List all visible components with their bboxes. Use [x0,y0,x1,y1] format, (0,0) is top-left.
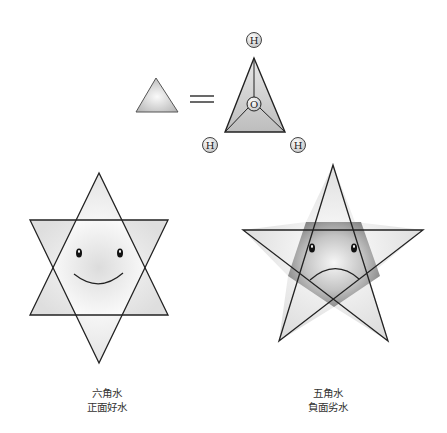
hexagram-title: 六角水 [62,386,152,400]
pentagram-title: 五角水 [283,386,373,400]
hydrogen-atom-top: H [247,33,262,48]
diagram-canvas: O H H H [0,0,447,433]
left-eye-icon [76,249,82,258]
right-eye-icon [351,244,357,253]
hydrogen-atom-right: H [291,138,306,153]
pentagram-subtitle: 負面劣水 [283,400,373,414]
pentagram-caption: 五角水 負面劣水 [283,386,373,414]
hexagram-subtitle: 正面好水 [62,400,152,414]
left-eye-icon [309,244,315,253]
oxygen-atom: O [247,97,261,111]
pentagram-star [243,165,423,341]
right-eye-icon [117,249,123,258]
hexagram-caption: 六角水 正面好水 [62,386,152,414]
water-triangle-symbol [136,78,178,112]
svg-text:H: H [206,140,215,151]
hexagram-star [30,173,168,363]
svg-text:O: O [250,99,258,110]
svg-text:H: H [250,35,259,46]
svg-text:H: H [294,140,303,151]
water-molecule-pyramid [225,58,285,132]
hydrogen-atom-left: H [203,138,218,153]
equals-sign [190,96,214,102]
